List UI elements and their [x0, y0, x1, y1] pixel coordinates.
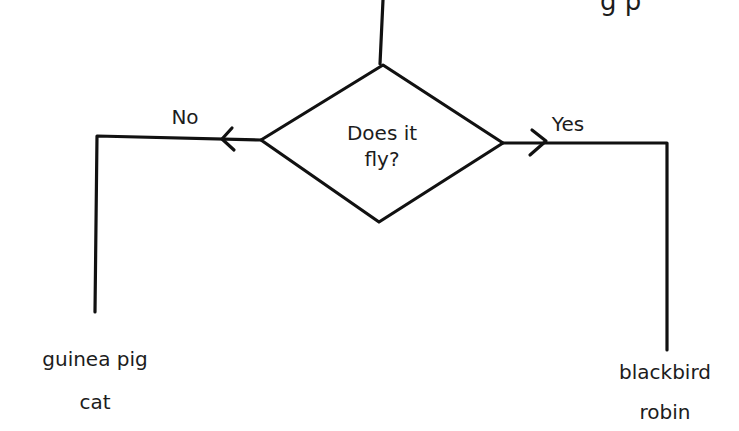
clipped-title-fragment: g p	[600, 0, 641, 16]
no-label: No	[160, 105, 210, 129]
no-item-guinea-pig: guinea pig	[10, 347, 180, 371]
decision-text-line1: Does it	[322, 121, 442, 145]
decision-text-line2: fly?	[322, 147, 442, 171]
no-item-cat: cat	[10, 390, 180, 414]
yes-item-blackbird: blackbird	[590, 360, 739, 384]
no-branch-line	[95, 136, 261, 312]
entry-line	[380, 0, 383, 64]
yes-label: Yes	[538, 112, 598, 136]
yes-item-robin: robin	[590, 400, 739, 424]
yes-branch-line	[503, 143, 667, 350]
